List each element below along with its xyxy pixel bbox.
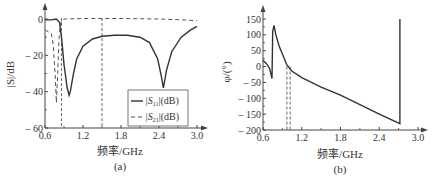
chart-b-reference-lines	[287, 67, 290, 130]
x-tick-label: 2.4	[373, 132, 386, 143]
x-tick-label: 1.2	[296, 132, 309, 143]
x-tick-label: 1.8	[334, 132, 347, 143]
x-tick-label: 0.6	[39, 130, 52, 141]
chart-b-y-label: φ/(°)	[220, 61, 233, 82]
chart-b-caption: (b)	[334, 163, 347, 176]
x-tick-label: 1.2	[77, 130, 90, 141]
y-tick-label: – 50	[243, 77, 262, 88]
x-tick-label: 3.0	[191, 130, 204, 141]
x-tick-label: 0.6	[257, 132, 270, 143]
legend-s11-label: |S11|(dB)	[145, 95, 179, 107]
y-tick-label: 150	[246, 14, 261, 25]
y-tick-label: 0	[38, 14, 43, 25]
y-tick-label: 50	[251, 45, 261, 56]
chart-a: 0– 20– 40– 60 0.61.21.82.43.0 |S11|(dB) …	[4, 3, 208, 173]
x-tick-label: 3.0	[412, 132, 425, 143]
x-tick-label: 1.8	[115, 130, 128, 141]
figure: 0– 20– 40– 60 0.61.21.82.43.0 |S11|(dB) …	[0, 0, 438, 180]
chart-a-y-ticks: 0– 20– 40– 60	[25, 14, 49, 134]
chart-b-x-ticks: 0.61.21.82.43.0	[257, 127, 425, 143]
chart-b-series-phase	[263, 19, 400, 124]
chart-a-x-label: 频率/GHz	[97, 144, 143, 157]
chart-a-series-s11	[45, 19, 197, 95]
y-tick-label: – 40	[25, 86, 44, 97]
chart-b-y-ticks: 150100500– 50– 100– 150– 200	[238, 14, 267, 136]
chart-b-y-arrow-icon	[261, 5, 266, 12]
y-tick-label: – 100	[238, 93, 262, 104]
chart-a-reference-lines	[61, 18, 102, 128]
chart-a-y-arrow-icon	[43, 3, 48, 10]
chart-a-y-label: |S|/dB	[4, 61, 16, 87]
chart-a-x-ticks: 0.61.21.82.43.0	[39, 125, 204, 141]
chart-a-legend: |S11|(dB) |S21|(dB)	[128, 90, 188, 126]
y-tick-label: 0	[256, 61, 261, 72]
chart-a-caption: (a)	[114, 160, 127, 173]
chart-b: 150100500– 50– 100– 150– 200 0.61.21.82.…	[220, 5, 428, 176]
y-tick-label: – 150	[238, 109, 262, 120]
chart-b-x-label: 频率/GHz	[317, 147, 363, 160]
x-tick-label: 2.4	[153, 130, 166, 141]
y-tick-label: – 20	[25, 50, 44, 61]
legend-s21-label: |S21|(dB)	[145, 111, 179, 123]
y-tick-label: 100	[246, 29, 261, 40]
